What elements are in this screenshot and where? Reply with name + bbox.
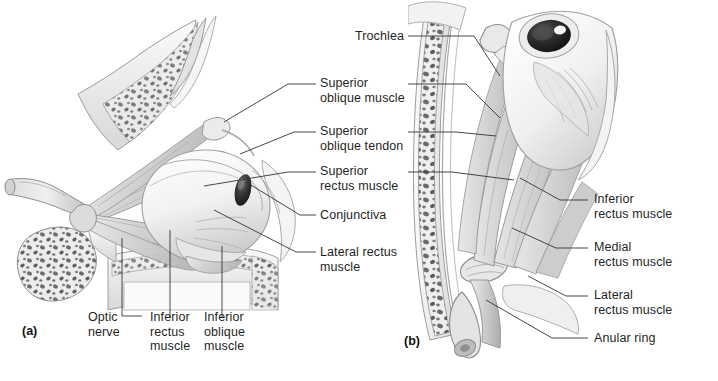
label-conjunctiva: Conjunctiva [320,208,386,223]
label-inferior-rectus-muscle-b: Inferior rectus muscle [594,192,672,221]
label-trochlea: Trochlea [274,29,404,44]
label-medial-rectus-muscle: Medial rectus muscle [594,240,672,269]
label-superior-oblique-muscle: Superior oblique muscle [320,76,405,105]
label-anular-ring: Anular ring [594,331,656,346]
label-superior-rectus-muscle: Superior rectus muscle [320,164,398,193]
label-lateral-rectus-muscle-b: Lateral rectus muscle [594,288,672,317]
leader-optic-nerve [122,238,142,316]
leader-superior-oblique-muscle [224,84,316,122]
leader-superior-oblique-tendon-b [408,132,496,136]
leader-inferior-rectus-muscle-b [520,178,588,200]
leader-superior-oblique-muscle-b [408,84,500,118]
label-superior-oblique-tendon: Superior oblique tendon [320,124,403,153]
panel-a-label: (a) [22,324,37,338]
label-lateral-rectus-muscle: Lateral rectus muscle [320,245,397,274]
anatomy-figure: Superior oblique muscle Superior oblique… [0,0,718,381]
leader-medial-rectus-muscle-b [512,228,588,248]
panel-b-label: (b) [404,334,420,348]
leader-lateral-rectus-muscle [214,210,316,252]
label-optic-nerve: Optic nerve [88,310,120,339]
leader-anular-ring [486,300,588,338]
label-inferior-oblique-muscle: Inferior oblique muscle [204,310,245,354]
leader-superior-rectus-muscle [204,172,316,186]
leader-superior-rectus-muscle-b [408,172,514,180]
leader-superior-oblique-tendon [240,132,316,154]
leader-lateral-rectus-muscle-b [528,276,588,296]
leader-trochlea [408,36,500,76]
label-inferior-rectus-muscle-a: Inferior rectus muscle [150,310,190,354]
leader-conjunctiva [246,182,316,215]
